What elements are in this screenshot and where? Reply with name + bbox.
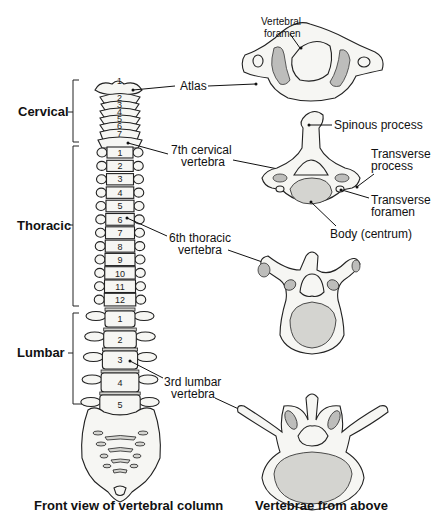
- cervical-label: Cervical: [18, 104, 69, 119]
- lumbar-number: 4: [117, 378, 122, 388]
- vertebral-foramen-label-line1: Vertebral: [261, 16, 301, 27]
- caption-front-view: Front view of vertebral column: [34, 498, 223, 513]
- caption-from-above: Vertebrae from above: [255, 498, 388, 513]
- lumbar-number: 3: [117, 355, 122, 365]
- svg-text:1: 1: [117, 76, 122, 86]
- atlas-label: Atlas: [180, 79, 207, 93]
- thoracic-number: 5: [117, 201, 122, 211]
- cervical-numbers: 1 2 3 4 5 6 7: [117, 76, 122, 139]
- sacrum: [82, 408, 161, 502]
- lumbar-label: Lumbar: [17, 345, 65, 360]
- svg-text:7: 7: [117, 129, 122, 139]
- cervical7-label-line2: vertebra: [181, 155, 225, 169]
- thoracic-number: 1: [117, 148, 122, 158]
- lumbar3-label-line2: vertebra: [171, 387, 215, 401]
- body-centrum-label: Body (centrum): [330, 227, 412, 241]
- lumbar-number: 5: [117, 400, 122, 410]
- lumbar-bracket: [68, 313, 82, 404]
- vertebral-column-diagram: 1 2 3 4 5 6 7 123456789101112 12345 Cerv…: [0, 0, 444, 517]
- lumbar-number: 2: [117, 335, 122, 345]
- lumbar-number: 1: [117, 314, 122, 324]
- thoracic-number: 6: [117, 215, 122, 225]
- thoracic-number: 12: [115, 295, 125, 305]
- thoracic6-top-view: [258, 252, 360, 354]
- spinous-process-label: Spinous process: [334, 118, 423, 132]
- thoracic-number: 3: [117, 174, 122, 184]
- thoracic6-label-line2: vertebra: [178, 243, 222, 257]
- cervical-bracket: [68, 80, 79, 142]
- thoracic-number: 2: [117, 161, 122, 171]
- thoracic-number: 7: [117, 228, 122, 238]
- vertebral-foramen-label-line2: foramen: [264, 28, 301, 39]
- thoracic-number: 8: [117, 242, 122, 252]
- thoracic-number: 11: [115, 282, 124, 292]
- lumbar3-top-view: [238, 394, 388, 510]
- thoracic-number: 9: [117, 255, 122, 265]
- thoracic-number: 10: [115, 269, 125, 279]
- thoracic-label: Thoracic: [17, 218, 71, 233]
- transverse-foramen-label-line2: foramen: [371, 205, 415, 219]
- transverse-process-label-line2: process: [371, 159, 413, 173]
- region-brackets: [68, 80, 82, 404]
- thoracic-number: 4: [117, 188, 122, 198]
